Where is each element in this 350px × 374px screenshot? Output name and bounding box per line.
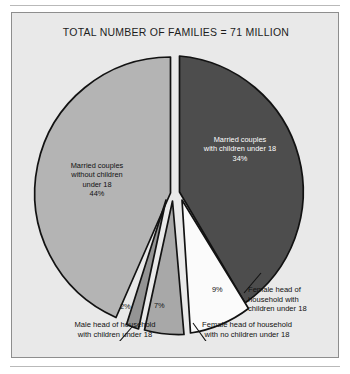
slice-value-44: 44% (32, 189, 162, 198)
slice-label-line2: with children under 18 (170, 144, 310, 153)
slice-label-line2: without children (32, 170, 162, 179)
callout-female-head-no-children: Female head of household with no childre… (158, 320, 336, 339)
chart-title: TOTAL NUMBER OF FAMILIES = 71 MILLION (12, 26, 339, 38)
bottom-divider-rule (10, 366, 340, 367)
slice-value-34: 34% (170, 154, 310, 163)
slice-label-line3: under 18 (32, 180, 162, 189)
slice-value-7: 7% (154, 301, 165, 310)
figure-container: TOTAL NUMBER OF FAMILIES = 71 MILLION Ma… (0, 0, 350, 374)
top-divider-rule (10, 5, 340, 6)
callout-line1: Female head of household (158, 320, 336, 330)
slice-label-married-no-children: Married couples without children under 1… (32, 161, 162, 199)
slice-label-married-with-children: Married couples with children under 18 3… (170, 135, 310, 163)
slice-value-2: 2% (120, 302, 131, 311)
slice-label-line1: Married couples (32, 161, 162, 170)
callout-line2: household with (248, 295, 307, 305)
callout-line3: children under 18 (248, 304, 307, 314)
slice-value-9: 9% (212, 285, 223, 294)
callout-female-head-with-children: Female head of household with children u… (248, 285, 307, 314)
callout-line2: with no children under 18 (158, 330, 336, 340)
chart-panel: TOTAL NUMBER OF FAMILIES = 71 MILLION Ma… (11, 12, 339, 358)
slice-label-line1: Married couples (170, 135, 310, 144)
callout-line1: Female head of (248, 285, 307, 295)
